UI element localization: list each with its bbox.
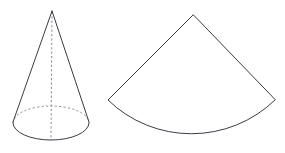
cone-left-slant-line — [13, 11, 52, 122]
sector-net-figure — [108, 15, 275, 134]
sector-outline — [108, 15, 275, 134]
cone-right-slant-line — [52, 11, 89, 122]
cone-figure — [13, 11, 89, 140]
geometry-figure-canvas — [0, 0, 285, 153]
